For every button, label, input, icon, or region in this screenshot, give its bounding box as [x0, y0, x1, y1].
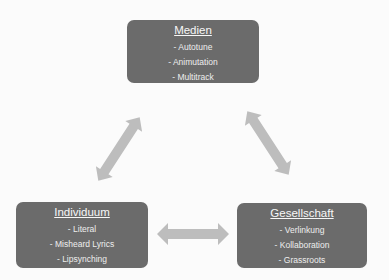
node-title: Medien — [127, 23, 259, 38]
node-title: Gesellschaft — [237, 206, 367, 221]
node-item: - Literal — [16, 222, 148, 237]
node-item: - Verlinkung — [237, 223, 367, 238]
node-item: - Animutation — [127, 55, 259, 70]
node-item: - Misheard Lyrics — [16, 237, 148, 252]
node-item: - Kollaboration — [237, 238, 367, 253]
node-gesellschaft: Gesellschaft - Verlinkung - Kollaboratio… — [237, 203, 367, 268]
node-title: Individuum — [16, 205, 148, 220]
node-item: - Multitrack — [127, 70, 259, 85]
node-item: - Grassroots — [237, 253, 367, 268]
node-individuum: Individuum - Literal - Misheard Lyrics -… — [16, 202, 148, 268]
arrow-individuum-gesellschaft — [157, 223, 229, 245]
node-item: - Lipsynching — [16, 252, 148, 267]
arrow-medien-individuum — [90, 112, 148, 187]
node-item: - Autotune — [127, 40, 259, 55]
arrow-medien-gesellschaft — [239, 106, 297, 181]
node-medien: Medien - Autotune - Animutation - Multit… — [127, 20, 259, 83]
